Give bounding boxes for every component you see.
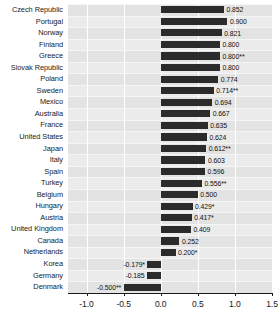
category-label: Finland	[0, 39, 66, 51]
row-separator	[68, 270, 272, 271]
bar	[161, 214, 192, 221]
bar	[161, 156, 206, 163]
category-label: Belgium	[0, 189, 66, 201]
category-label: Germany	[0, 270, 66, 282]
bar	[161, 6, 224, 13]
category-label: Canada	[0, 235, 66, 247]
row-separator	[68, 62, 272, 63]
x-axis-line	[68, 293, 272, 294]
bar	[161, 203, 193, 210]
bar	[161, 191, 198, 198]
category-axis-labels: Czech RepublicPortugalNorwayFinlandGreec…	[0, 4, 66, 293]
category-label: Mexico	[0, 96, 66, 108]
bar	[161, 237, 180, 244]
bar-value-label: 0.800	[223, 64, 240, 71]
axis-tick-label: 1.5	[266, 299, 278, 309]
axis-tick-mark	[161, 293, 162, 296]
bar	[161, 41, 220, 48]
axis-tick-label: -0.5	[116, 299, 130, 309]
bar	[161, 133, 207, 140]
row-separator	[68, 177, 272, 178]
category-label: Turkey	[0, 177, 66, 189]
category-label: Poland	[0, 73, 66, 85]
bar-value-label: 0.500	[200, 191, 217, 198]
bar	[124, 284, 161, 291]
category-label: Italy	[0, 154, 66, 166]
gridline-vertical	[272, 4, 273, 293]
horizontal-bar-chart: Czech RepublicPortugalNorwayFinlandGreec…	[0, 0, 280, 329]
bar	[161, 145, 206, 152]
bar	[161, 29, 222, 36]
row-separator	[68, 50, 272, 51]
row-separator	[68, 143, 272, 144]
gridline-vertical	[87, 4, 88, 293]
bar-value-label: 0.900	[230, 18, 247, 25]
bar-value-label: 0.200*	[178, 249, 197, 256]
category-label: Greece	[0, 50, 66, 62]
bar-value-label: 0.612**	[209, 145, 231, 152]
bar-value-label: 0.603	[208, 157, 225, 164]
row-separator	[68, 27, 272, 28]
row-separator	[68, 73, 272, 74]
gridline-vertical	[124, 4, 125, 293]
bar	[161, 64, 220, 71]
axis-tick-label: 0.5	[192, 299, 204, 309]
category-label: Japan	[0, 143, 66, 155]
row-separator	[68, 212, 272, 213]
bar	[161, 87, 214, 94]
row-band	[68, 258, 272, 270]
axis-tick-mark	[124, 293, 125, 296]
axis-tick-label: -1.0	[79, 299, 93, 309]
row-separator	[68, 281, 272, 282]
bar	[161, 76, 218, 83]
category-label: Austria	[0, 212, 66, 224]
bar	[161, 99, 212, 106]
row-separator	[68, 131, 272, 132]
axis-tick-label: 1.0	[229, 299, 241, 309]
bar	[147, 261, 160, 268]
bar-value-label: 0.800	[223, 41, 240, 48]
bar-value-label: -0.179*	[123, 261, 145, 268]
category-label: Spain	[0, 166, 66, 178]
bar-value-label: 0.429*	[195, 203, 214, 210]
row-separator	[68, 224, 272, 225]
bar-value-label: 0.800**	[223, 53, 245, 60]
bar	[161, 226, 191, 233]
row-separator	[68, 16, 272, 17]
category-label: Norway	[0, 27, 66, 39]
bar-value-label: 0.852	[226, 6, 243, 13]
category-label: Slovak Republic	[0, 62, 66, 74]
category-label: United Kingdom	[0, 223, 66, 235]
bar-value-label: 0.417*	[194, 214, 213, 221]
row-band	[68, 270, 272, 282]
row-separator	[68, 247, 272, 248]
bar-value-label: 0.409	[194, 226, 211, 233]
category-label: Netherlands	[0, 246, 66, 258]
axis-tick-label: 0.0	[155, 299, 167, 309]
row-separator	[68, 154, 272, 155]
category-label: Portugal	[0, 16, 66, 28]
bar-value-label: 0.556**	[204, 180, 226, 187]
row-separator	[68, 108, 272, 109]
bar-value-label: 0.821	[224, 30, 241, 37]
bar	[161, 52, 220, 59]
row-separator	[68, 85, 272, 86]
bar-value-label: 0.694	[215, 99, 232, 106]
axis-tick-mark	[87, 293, 88, 296]
row-separator	[68, 96, 272, 97]
bar-value-label: -0.500**	[97, 284, 121, 291]
bar	[161, 122, 208, 129]
bar	[161, 180, 202, 187]
bar-value-label: 0.635	[210, 122, 227, 129]
row-separator	[68, 258, 272, 259]
category-label: Korea	[0, 258, 66, 270]
bar-value-label: 0.252	[182, 238, 199, 245]
bar-value-label: 0.774	[221, 76, 238, 83]
axis-tick-mark	[235, 293, 236, 296]
bar-value-label: 0.624	[210, 134, 227, 141]
row-separator	[68, 189, 272, 190]
bar	[161, 18, 228, 25]
bar	[147, 272, 161, 279]
category-label: United States	[0, 131, 66, 143]
row-separator	[68, 39, 272, 40]
